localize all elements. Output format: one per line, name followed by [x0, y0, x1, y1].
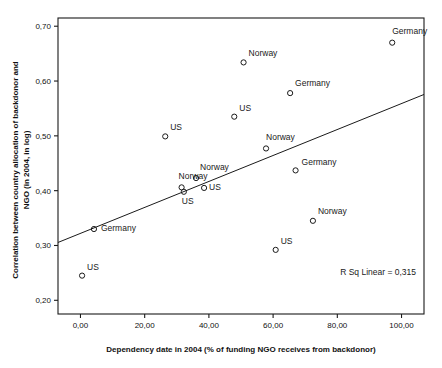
data-point-label: US — [182, 196, 194, 206]
data-point-labels-layer: USGermanyUSNorwayUSNorwayUSUSNorwayNorwa… — [87, 26, 428, 272]
y-tick-label: 0,50 — [35, 132, 51, 141]
data-point-label: US — [87, 262, 99, 272]
y-tick-label: 0,20 — [35, 296, 51, 305]
x-axis-title: Dependency date in 2004 (% of funding NG… — [106, 345, 376, 354]
x-tick-label: 40,00 — [199, 321, 220, 330]
data-point-marker — [163, 134, 168, 139]
data-point-label: Germany — [302, 157, 338, 167]
data-point-label: Germany — [295, 78, 331, 88]
data-point-marker — [293, 168, 298, 173]
y-tick-label: 0,30 — [35, 241, 51, 250]
y-axis-title-line1: Correlation between country allocation o… — [11, 61, 20, 278]
data-points-layer — [79, 40, 394, 278]
plot-canvas: 0,0020,0040,0060,0080,00100,00 0,200,300… — [0, 0, 442, 368]
data-point-label: US — [281, 236, 293, 246]
regression-line — [58, 94, 424, 242]
x-tick-label: 80,00 — [327, 321, 348, 330]
y-tick-label: 0,40 — [35, 187, 51, 196]
data-point-marker — [232, 114, 237, 119]
data-point-marker — [79, 273, 84, 278]
data-point-label: Germany — [101, 223, 137, 233]
data-point-label: US — [209, 182, 221, 192]
r-squared-annotation: R Sq Linear = 0,315 — [340, 267, 416, 277]
y-axis-title-line2: NGO (in 2004, in log) — [22, 130, 31, 209]
x-tick-label: 0,00 — [73, 321, 89, 330]
x-tick-label: 100,00 — [389, 321, 414, 330]
data-point-marker — [390, 40, 395, 45]
y-axis-ticks: 0,200,300,400,500,600,70 — [35, 22, 58, 305]
data-point-marker — [241, 60, 246, 65]
data-point-marker — [273, 247, 278, 252]
data-point-marker — [201, 185, 206, 190]
data-point-label: Norway — [200, 162, 230, 172]
data-point-label: Norway — [318, 206, 348, 216]
data-point-marker — [310, 218, 315, 223]
data-point-marker — [288, 90, 293, 95]
x-tick-label: 20,00 — [135, 321, 156, 330]
data-point-label: Norway — [179, 171, 209, 181]
y-tick-label: 0,70 — [35, 22, 51, 31]
x-tick-label: 60,00 — [263, 321, 284, 330]
x-axis-ticks: 0,0020,0040,0060,0080,00100,00 — [73, 314, 415, 330]
data-point-label: Germany — [392, 26, 428, 36]
scatter-plot-figure: 0,0020,0040,0060,0080,00100,00 0,200,300… — [0, 0, 442, 368]
data-point-marker — [263, 146, 268, 151]
data-point-label: US — [239, 103, 251, 113]
data-point-label: Norway — [266, 132, 296, 142]
data-point-label: Norway — [249, 48, 279, 58]
data-point-label: US — [170, 122, 182, 132]
y-tick-label: 0,60 — [35, 77, 51, 86]
